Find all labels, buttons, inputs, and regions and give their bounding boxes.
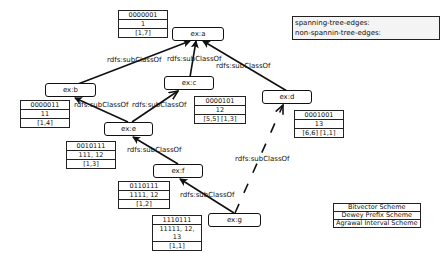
- edge-label-e-c: rdfs:subClassOf: [132, 101, 187, 109]
- interval-b: [1,4]: [21, 119, 70, 128]
- node-c: ex:c: [164, 76, 214, 90]
- table-d: 0001001 13 [6,6] [1,1]: [294, 110, 344, 138]
- table-e: 0010111 111, 12 [1,3]: [66, 141, 116, 169]
- node-b: ex:b: [45, 83, 96, 97]
- bitvector-g: 1110111: [153, 216, 202, 225]
- dewey-e: 111, 12: [67, 151, 116, 160]
- table-g: 1110111 11111, 12, 13 [1,1]: [152, 215, 202, 251]
- table-f: 0110111 1111, 12 [1,2]: [118, 181, 170, 209]
- dewey-b: 11: [21, 110, 70, 119]
- bitvector-c: 0000101: [195, 97, 246, 106]
- edge-label-g-d: rdfs:subClassOf: [235, 155, 290, 163]
- scheme-interval: Agrawal Interval Scheme: [334, 220, 421, 228]
- dewey-d: 13: [295, 120, 344, 129]
- edge-label-c-a: rdfs:subClassOf: [167, 55, 222, 63]
- edge-label-f-e: rdfs:subClassOf: [127, 146, 182, 154]
- dewey-a: 1: [119, 20, 168, 29]
- table-a: 0000001 1 [1,7]: [118, 10, 168, 38]
- bitvector-f: 0110111: [119, 182, 170, 191]
- bitvector-e: 0010111: [67, 142, 116, 151]
- edge-label-e-b: rdfs:subClassOf: [74, 101, 129, 109]
- edge-label-b-a: rdfs:subClassOf: [107, 56, 162, 64]
- legend-spanning-label: spanning-tree-edges:: [295, 19, 370, 27]
- interval-d: [6,6] [1,1]: [295, 129, 344, 138]
- table-b: 0000011 11 [1,4]: [20, 100, 70, 128]
- interval-c: [5,5] [1,3]: [195, 115, 246, 124]
- table-c: 0000101 12 [5,5] [1,3]: [194, 96, 246, 124]
- scheme-key: Bitvector Scheme Dewey Prefix Scheme Agr…: [333, 203, 421, 228]
- node-d: ex:d: [262, 90, 312, 104]
- dewey-g: 11111, 12, 13: [153, 225, 202, 242]
- edge-label-g-f: rdfs:subClassOf: [180, 191, 235, 199]
- interval-f: [1,2]: [119, 200, 170, 209]
- interval-g: [1,1]: [153, 242, 202, 251]
- dewey-f: 1111, 12: [119, 191, 170, 200]
- bitvector-d: 0001001: [295, 111, 344, 120]
- edge-label-d-a: rdfs:subClassOf: [216, 62, 271, 70]
- interval-a: [1,7]: [119, 29, 168, 38]
- bitvector-b: 0000011: [21, 101, 70, 110]
- node-a: ex:a: [172, 27, 224, 41]
- node-f: ex:f: [153, 164, 203, 178]
- bitvector-a: 0000001: [119, 11, 168, 20]
- dewey-c: 12: [195, 106, 246, 115]
- node-e: ex:e: [104, 122, 153, 136]
- legend-box: spanning-tree-edges: non-spannin-tree-ed…: [292, 16, 440, 40]
- interval-e: [1,3]: [67, 160, 116, 169]
- node-g: ex:g: [208, 213, 261, 227]
- legend-nonspanning-label: non-spannin-tree-edges:: [295, 29, 381, 37]
